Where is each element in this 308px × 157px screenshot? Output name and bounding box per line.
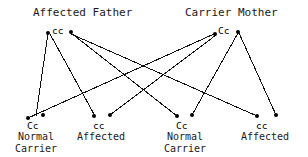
father-to-child-4	[71, 34, 257, 116]
child-4-label: Affected	[237, 131, 293, 143]
mother-title: Carrier Mother	[185, 6, 278, 19]
child-3-allele-right	[190, 113, 194, 117]
inheritance-diagram: Affected Father Carrier Mother cc Cc Cc …	[0, 0, 308, 157]
child-3-allele-left	[175, 114, 179, 118]
child-3-genotype: Cc	[176, 120, 187, 131]
child-3-label-line1: Normal	[157, 131, 213, 143]
child-2-label: Affected	[73, 131, 129, 143]
father-allele-right	[69, 30, 73, 34]
mother-to-child-2	[110, 35, 216, 115]
child-1-label-line1: Normal	[8, 131, 64, 143]
child-4-allele-right	[274, 113, 278, 117]
father-allele-left	[46, 31, 50, 35]
mother-genotype: Cc	[218, 25, 229, 36]
child-4-label-line1: Affected	[237, 131, 293, 143]
child-3-label: Normal Carrier	[157, 131, 213, 154]
child-2-allele-right	[108, 113, 112, 117]
child-1-label-line2: Carrier	[8, 143, 64, 155]
father-genotype: cc	[52, 25, 63, 36]
mother-to-child-3	[192, 33, 238, 115]
mother-to-child-1	[28, 34, 214, 118]
child-1-genotype: Cc	[27, 120, 38, 131]
child-1-allele-right	[41, 113, 45, 117]
mother-allele-left	[213, 32, 217, 36]
child-1-label: Normal Carrier	[8, 131, 64, 154]
father-title: Affected Father	[33, 6, 132, 19]
child-4-allele-left	[255, 114, 259, 118]
child-4-genotype: cc	[256, 120, 267, 131]
child-2-allele-left	[92, 114, 96, 118]
child-3-label-line2: Carrier	[157, 143, 213, 155]
father-to-child-1	[36, 33, 48, 116]
child-2-genotype: cc	[93, 120, 104, 131]
mother-to-child-4	[239, 33, 276, 115]
child-2-label-line1: Affected	[73, 131, 129, 143]
mother-allele-right	[236, 30, 240, 34]
